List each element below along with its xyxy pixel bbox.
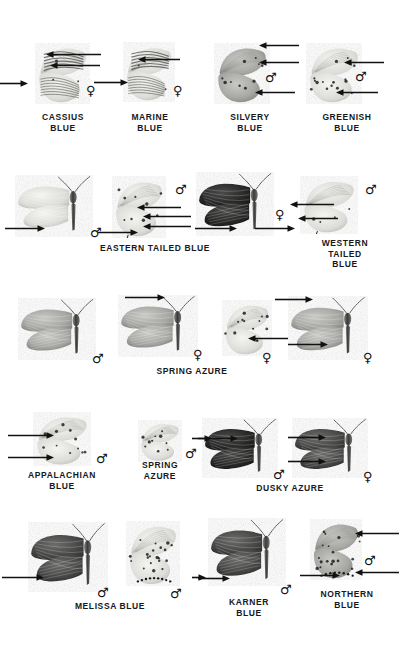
specimen-spring-azure-female-dorsal	[118, 295, 198, 357]
caption-western-tailed-blue: WESTERN TAILED BLUE	[316, 238, 374, 270]
caption-spring-azure-1: SPRING AZURE	[156, 366, 227, 377]
sex-symbol-spring-azure-female-3: ♀	[363, 351, 373, 364]
sex-symbol-dusky-azure-female: ♀	[363, 470, 373, 483]
caption-marine-blue: MARINE BLUE	[131, 112, 168, 133]
arrow-western-forespot	[290, 200, 334, 208]
caption-appalachian-blue: APPALACHIAN BLUE	[28, 470, 96, 491]
arrow-spring-azure-dark-edge	[125, 293, 165, 301]
caption-dusky-azure: DUSKY AZURE	[256, 483, 324, 494]
sex-symbol-spring-azure-female-2: ♀	[262, 351, 272, 364]
specimen-spring-azure-female-dorsal2	[288, 296, 368, 360]
caption-greenish-blue: GREENISH BLUE	[322, 112, 371, 133]
arrow-dusky-female-fw	[288, 433, 326, 441]
arrow-eastern-tail	[143, 222, 191, 230]
caption-northern-blue: NORTHERN BLUE	[321, 589, 374, 610]
arrow-eastern-female-tail	[195, 224, 237, 232]
caption-karner-blue: KARNER BLUE	[229, 597, 269, 618]
arrow-western-margin	[255, 224, 295, 232]
sex-symbol-silvery-male: ♂	[265, 71, 277, 84]
caption-melissa-blue: MELISSA BLUE	[75, 601, 145, 612]
butterfly-identification-plate: ♀♀♂♂♂♂♀♂♂♀♀♀♂♂♂♀♂♂♂♂ CASSIUS BLUEMARINE …	[0, 0, 403, 653]
sex-symbol-eastern-tailed-female: ♀	[275, 208, 285, 221]
caption-spring-azure-2: SPRING AZURE	[142, 460, 178, 481]
arrow-marine-bands	[138, 55, 180, 63]
sex-symbol-cassius-female: ♀	[86, 84, 96, 97]
sex-symbol-northern-male: ♂	[364, 554, 376, 567]
caption-eastern-tailed-blue: EASTERN TAILED BLUE	[100, 243, 210, 254]
arrow-appalachian-lower	[8, 453, 54, 461]
arrow-eastern-tail-left	[5, 224, 45, 232]
arrow-appalachian-upper	[8, 431, 54, 439]
arrow-greenish-hindspots	[336, 88, 378, 96]
arrow-dusky-female-hw	[288, 457, 326, 465]
arrow-eastern-hind-spot	[143, 212, 191, 220]
arrow-spring-azure-dark-fw	[275, 295, 313, 303]
arrow-eastern-orange-spot	[137, 203, 181, 211]
sex-symbol-marine-female: ♀	[173, 84, 183, 97]
specimen-dusky-azure-male-dorsal	[202, 418, 278, 478]
sex-symbol-eastern-tailed-male-b: ♂	[175, 183, 187, 196]
arrow-karner-hindwing	[198, 574, 230, 582]
sex-symbol-karner-male: ♂	[280, 583, 292, 596]
sex-symbol-melissa-ventral-male: ♂	[170, 587, 182, 600]
arrow-silvery-spotrow	[259, 58, 299, 66]
caption-cassius-blue: CASSIUS BLUE	[42, 112, 84, 133]
arrow-cassius-hindwing-eyespot	[0, 79, 28, 87]
arrow-eastern-tail-base	[98, 228, 138, 236]
arrow-silvery-hindspots	[255, 88, 295, 96]
specimen-dusky-azure-female-dorsal	[292, 418, 368, 478]
specimen-spring-azure-small-ventral	[138, 420, 182, 462]
arrow-cassius-forewing-spot	[50, 61, 100, 69]
sex-symbol-spring-azure-male-1: ♂	[92, 352, 104, 365]
sex-symbol-western-tailed-male: ♂	[365, 183, 377, 196]
sex-symbol-dusky-azure-male: ♂	[273, 468, 285, 481]
specimen-marine-blue-ventral	[123, 42, 175, 102]
arrow-marine-hindwing	[94, 78, 128, 86]
arrow-cassius-forewing-bands	[46, 50, 101, 58]
caption-silvery-blue: SILVERY BLUE	[230, 112, 270, 133]
arrow-northern-fw-spots	[355, 529, 399, 537]
sex-symbol-appalachian-male: ♂	[96, 452, 108, 465]
arrow-spring-azure-hind-mark	[248, 334, 288, 342]
arrow-dusky-forewing	[198, 434, 238, 442]
arrow-western-hindspot	[298, 214, 338, 222]
arrow-spring-azure-hind-edge	[288, 340, 328, 348]
sex-symbol-greenish-male: ♂	[355, 70, 367, 83]
sex-symbol-eastern-tailed-male-a: ♂	[90, 226, 102, 239]
arrow-greenish-forespots	[344, 58, 384, 66]
sex-symbol-spring-azure-male-2: ♂	[185, 447, 197, 460]
sex-symbol-melissa-male: ♂	[97, 586, 109, 599]
specimen-spring-azure-female-ventral	[222, 300, 272, 356]
specimen-spring-azure-male-dorsal	[18, 298, 96, 360]
arrow-northern-hw-base	[300, 571, 340, 579]
sex-symbol-spring-azure-female-1: ♀	[193, 348, 203, 361]
arrow-silvery-margin	[259, 41, 299, 49]
arrow-melissa-hindwing	[2, 573, 44, 581]
arrow-northern-hw-spots	[355, 568, 399, 576]
specimen-melissa-blue-ventral	[126, 520, 180, 586]
